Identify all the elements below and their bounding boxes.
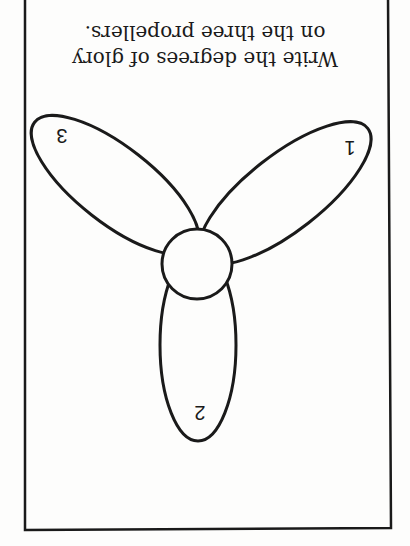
instruction-line-1: Write the degrees of glory bbox=[71, 47, 338, 71]
propeller-hub bbox=[162, 229, 232, 299]
instruction-line-2: on the three propellers. bbox=[85, 21, 326, 45]
blade-1-number: 1 bbox=[344, 137, 355, 159]
blade-2-number: 2 bbox=[194, 402, 205, 424]
blade-3-number: 3 bbox=[56, 125, 67, 147]
instruction-text: Write the degrees of glory on the three … bbox=[71, 21, 338, 71]
worksheet-illustration: Write the degrees of glory on the three … bbox=[0, 0, 410, 546]
worksheet-page: Write the degrees of glory on the three … bbox=[0, 0, 410, 546]
